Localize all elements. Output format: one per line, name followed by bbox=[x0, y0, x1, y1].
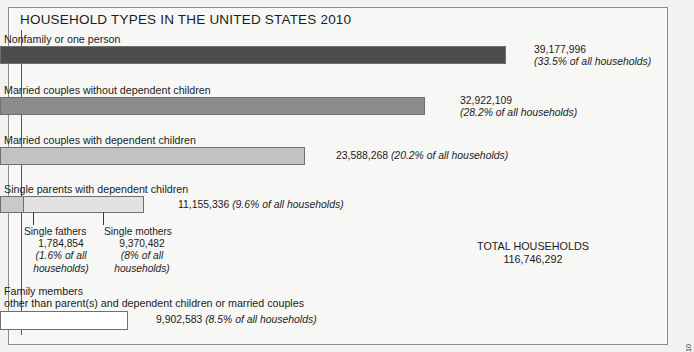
source-credit: © Cengage Learning based on U.S. Census … bbox=[684, 344, 693, 352]
bar-label-married-with-children: Married couples with dependent children bbox=[4, 134, 196, 147]
bar-married-without-children bbox=[0, 97, 425, 115]
bar-value-percent-nonfamily: (33.5% of all households) bbox=[534, 56, 651, 68]
bar-value-percent-single-parents: (9.6% of all households) bbox=[232, 199, 343, 210]
bar-label-nonfamily: Nonfamily or one person bbox=[4, 33, 120, 46]
tick-single-fathers bbox=[33, 212, 34, 225]
bar-family-members bbox=[0, 311, 128, 330]
bar-value-percent-married-with-children: (20.2% of all households) bbox=[391, 150, 508, 161]
bar-nonfamily bbox=[0, 46, 506, 64]
bar-value-percent-married-without-children: (28.2% of all households) bbox=[460, 107, 577, 119]
bar-value-married-with-children: 23,588,268 (20.2% of all households) bbox=[336, 150, 508, 162]
bar-value-family-members: 9,902,583 (8.5% of all households) bbox=[156, 314, 317, 326]
annotation-percent2-single-mothers: households) bbox=[104, 263, 180, 275]
chart-title: HOUSEHOLD TYPES IN THE UNITED STATES 201… bbox=[20, 12, 351, 27]
bar-label-single-parents: Single parents with dependent children bbox=[4, 183, 188, 196]
total-households-label: TOTAL HOUSEHOLDS bbox=[477, 240, 589, 252]
annotation-number-single-mothers: 9,370,482 bbox=[104, 238, 180, 250]
annotation-head-single-mothers: Single mothers bbox=[104, 226, 180, 238]
tick-single-mothers bbox=[103, 212, 104, 225]
bar-single-parents bbox=[0, 196, 144, 213]
bar-married-with-children bbox=[0, 147, 305, 165]
annotation-single-fathers: Single fathers 1,784,854 (1.6% of all ho… bbox=[24, 226, 98, 275]
annotation-percent-single-mothers: (8% of all bbox=[104, 250, 180, 262]
bar-label-family-members-line2: other than parent(s) and dependent child… bbox=[4, 297, 304, 310]
annotation-percent-single-fathers: (1.6% of all bbox=[24, 250, 98, 262]
bar-value-number-family-members: 9,902,583 bbox=[156, 314, 202, 325]
total-households-callout: TOTAL HOUSEHOLDS 116,746,292 bbox=[458, 240, 608, 266]
bar-value-number-married-with-children: 23,588,268 bbox=[336, 150, 388, 161]
bar-value-nonfamily: 39,177,996 (33.5% of all households) bbox=[534, 44, 651, 68]
total-households-value: 116,746,292 bbox=[458, 253, 608, 266]
bar-value-married-without-children: 32,922,109 (28.2% of all households) bbox=[460, 95, 577, 119]
annotation-number-single-fathers: 1,784,854 bbox=[24, 238, 98, 250]
bar-segment-single-fathers bbox=[1, 197, 24, 212]
bar-label-married-without-children: Married couples without dependent childr… bbox=[4, 84, 211, 97]
bar-value-number-married-without-children: 32,922,109 bbox=[460, 95, 577, 107]
annotation-single-mothers: Single mothers 9,370,482 (8% of all hous… bbox=[104, 226, 180, 275]
annotation-percent2-single-fathers: households) bbox=[24, 263, 98, 275]
bar-value-percent-family-members: (8.5% of all households) bbox=[205, 314, 316, 325]
bar-label-family-members-line1: Family members bbox=[4, 285, 83, 298]
bar-value-number-single-parents: 11,155,336 bbox=[178, 199, 229, 210]
bar-value-single-parents: 11,155,336 (9.6% of all households) bbox=[178, 199, 344, 211]
figure-container: HOUSEHOLD TYPES IN THE UNITED STATES 201… bbox=[0, 0, 694, 352]
bar-value-number-nonfamily: 39,177,996 bbox=[534, 44, 651, 56]
annotation-head-single-fathers: Single fathers bbox=[24, 226, 98, 238]
